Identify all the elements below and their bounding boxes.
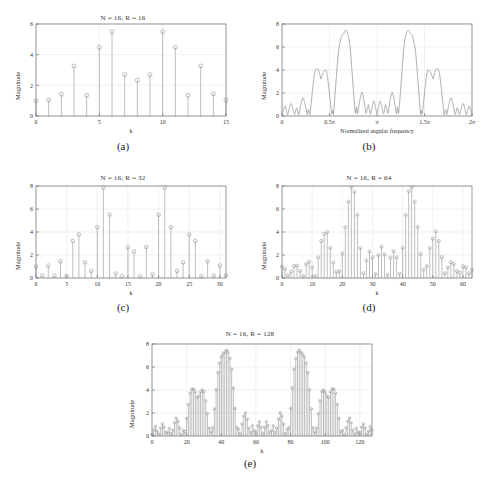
svg-text:60: 60 bbox=[460, 281, 466, 287]
svg-text:k: k bbox=[261, 448, 264, 454]
svg-text:6: 6 bbox=[30, 21, 33, 27]
svg-text:50: 50 bbox=[430, 281, 436, 287]
svg-text:2: 2 bbox=[30, 252, 33, 258]
svg-text:120: 120 bbox=[355, 439, 364, 445]
svg-text:6: 6 bbox=[30, 206, 33, 212]
panel-a-caption: (a) bbox=[0, 140, 246, 152]
svg-text:2: 2 bbox=[146, 410, 149, 416]
svg-text:2: 2 bbox=[276, 252, 279, 258]
svg-text:4: 4 bbox=[30, 52, 33, 58]
panel-d-title: N = 16, R = 64 bbox=[246, 174, 492, 182]
svg-text:15: 15 bbox=[223, 119, 229, 125]
panel-b-plot: 0246800.5ππ1.5π2πNormalized angular freq… bbox=[246, 0, 492, 160]
svg-text:8: 8 bbox=[276, 21, 279, 27]
svg-text:80: 80 bbox=[288, 439, 294, 445]
panel-c-ylabel: Magnitude bbox=[14, 242, 21, 270]
svg-text:π: π bbox=[375, 119, 378, 125]
svg-text:10: 10 bbox=[94, 281, 100, 287]
panel-e-caption: (e) bbox=[110, 457, 390, 469]
panel-c-title: N = 16, R = 32 bbox=[0, 174, 246, 182]
svg-text:10: 10 bbox=[160, 119, 166, 125]
svg-text:8: 8 bbox=[146, 341, 149, 347]
svg-text:0: 0 bbox=[276, 113, 279, 119]
panel-e: N = 16, R = 128 Magnitude 02468020406080… bbox=[110, 330, 390, 481]
svg-text:30: 30 bbox=[217, 281, 223, 287]
svg-text:k: k bbox=[130, 128, 133, 134]
svg-text:25: 25 bbox=[186, 281, 192, 287]
svg-text:20: 20 bbox=[156, 281, 162, 287]
svg-text:Normalized angular frequency: Normalized angular frequency bbox=[340, 128, 413, 134]
svg-text:20: 20 bbox=[184, 439, 190, 445]
panel-c: N = 16, R = 32 Magnitude 024680510152025… bbox=[0, 170, 246, 330]
svg-text:8: 8 bbox=[30, 183, 33, 189]
svg-text:0: 0 bbox=[276, 275, 279, 281]
svg-text:2π: 2π bbox=[469, 119, 475, 125]
svg-text:0: 0 bbox=[146, 433, 149, 439]
svg-text:40: 40 bbox=[218, 439, 224, 445]
panel-a-plot: 0246051015k bbox=[0, 0, 246, 160]
panel-d: N = 16, R = 64 Magnitude 024680102030405… bbox=[246, 170, 492, 330]
svg-text:0: 0 bbox=[35, 281, 38, 287]
svg-text:4: 4 bbox=[146, 387, 149, 393]
svg-text:10: 10 bbox=[309, 281, 315, 287]
svg-text:0: 0 bbox=[30, 113, 33, 119]
panel-b: Magnitude 0246800.5ππ1.5π2πNormalized an… bbox=[246, 0, 492, 160]
svg-text:6: 6 bbox=[276, 206, 279, 212]
panel-b-ylabel: Magnitude bbox=[260, 72, 267, 100]
panel-d-caption: (d) bbox=[246, 301, 492, 313]
panel-c-caption: (c) bbox=[0, 301, 246, 313]
svg-text:0: 0 bbox=[30, 275, 33, 281]
panel-d-ylabel: Magnitude bbox=[260, 242, 267, 270]
svg-text:0: 0 bbox=[281, 119, 284, 125]
svg-text:0: 0 bbox=[281, 281, 284, 287]
svg-text:0: 0 bbox=[35, 119, 38, 125]
panel-a-title: N = 16, R = 16 bbox=[0, 14, 246, 22]
svg-text:1.5π: 1.5π bbox=[419, 119, 430, 125]
panel-a-ylabel: Magnitude bbox=[14, 72, 21, 100]
svg-text:5: 5 bbox=[65, 281, 68, 287]
svg-text:40: 40 bbox=[400, 281, 406, 287]
svg-text:6: 6 bbox=[146, 364, 149, 370]
svg-text:k: k bbox=[130, 290, 133, 296]
svg-text:20: 20 bbox=[339, 281, 345, 287]
svg-text:60: 60 bbox=[253, 439, 259, 445]
svg-text:6: 6 bbox=[276, 44, 279, 50]
panel-e-ylabel: Magnitude bbox=[128, 400, 135, 428]
svg-text:5: 5 bbox=[98, 119, 101, 125]
panel-a: N = 16, R = 16 Magnitude 0246051015k (a) bbox=[0, 0, 246, 160]
panel-e-title: N = 16, R = 128 bbox=[110, 330, 390, 338]
svg-text:30: 30 bbox=[369, 281, 375, 287]
svg-text:15: 15 bbox=[125, 281, 131, 287]
svg-text:k: k bbox=[376, 290, 379, 296]
svg-text:0: 0 bbox=[151, 439, 154, 445]
svg-text:4: 4 bbox=[276, 67, 279, 73]
svg-text:8: 8 bbox=[276, 183, 279, 189]
svg-text:4: 4 bbox=[30, 229, 33, 235]
svg-text:0.5π: 0.5π bbox=[324, 119, 335, 125]
svg-text:2: 2 bbox=[276, 90, 279, 96]
panel-b-caption: (b) bbox=[246, 140, 492, 152]
svg-text:4: 4 bbox=[276, 229, 279, 235]
svg-text:100: 100 bbox=[321, 439, 330, 445]
svg-text:2: 2 bbox=[30, 83, 33, 89]
